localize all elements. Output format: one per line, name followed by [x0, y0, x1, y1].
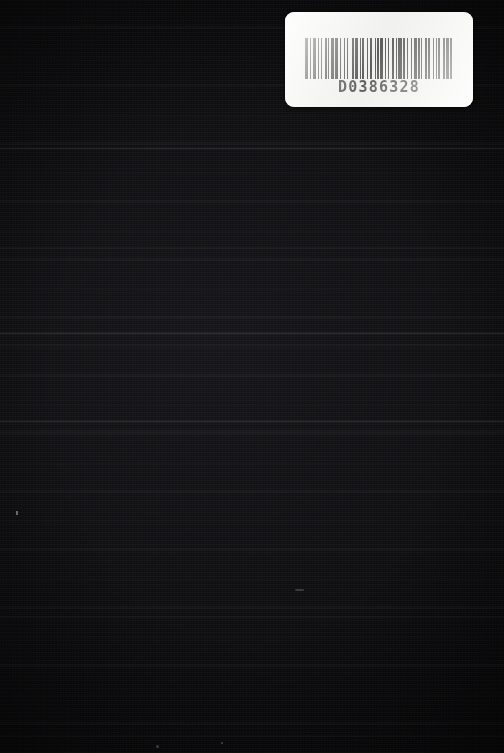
barcode-bars: [305, 38, 455, 79]
photo-scene: D0386328: [0, 0, 504, 753]
barcode-label: D0386328: [285, 12, 473, 107]
barcode-number: D0386328: [285, 80, 473, 95]
cover-fibre-texture: [0, 0, 504, 753]
